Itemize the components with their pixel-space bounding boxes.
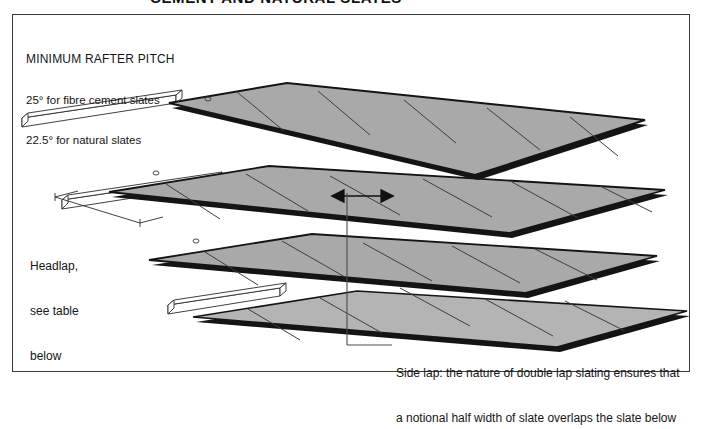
headlap-label-line1: Headlap, (30, 259, 79, 274)
headlap-label-line2: see table (30, 304, 79, 319)
slate-course-1 (169, 83, 648, 180)
slate-course-3 (149, 234, 660, 298)
side-lap-caption-line1: Side lap: the nature of double lap slati… (396, 366, 680, 381)
headlap-label-line3: below (30, 349, 79, 364)
headlap-label: Headlap, see table below (30, 229, 79, 379)
side-lap-caption: Side lap: the nature of double lap slati… (396, 336, 680, 429)
pitch-note-line1: MINIMUM RAFTER PITCH (26, 53, 175, 67)
pitch-note-line3: 22.5° for natural slates (26, 134, 175, 148)
side-lap-caption-line2: a notional half width of slate overlaps … (396, 411, 680, 426)
minimum-rafter-pitch-note: MINIMUM RAFTER PITCH 25° for fibre cemen… (26, 26, 175, 161)
pitch-note-line2: 25° for fibre cement slates (26, 94, 175, 108)
